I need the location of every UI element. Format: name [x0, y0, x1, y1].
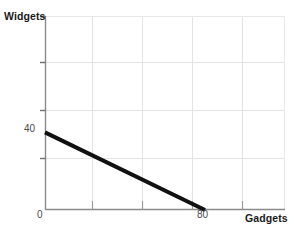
x-axis [45, 201, 285, 210]
grid-lines-vertical [93, 16, 243, 210]
frontier-line [45, 132, 205, 210]
y-axis [40, 16, 46, 210]
line-chart-figure: Widgets Gadgets 40 0 80 [0, 0, 294, 239]
grid-lines-horizontal [45, 63, 285, 159]
chart-screenshot: Widgets Gadgets 40 0 80 [0, 0, 294, 239]
data-series-frontier [45, 132, 205, 210]
y-axis-title: Widgets [4, 10, 45, 22]
x-axis-title: Gadgets [245, 212, 288, 224]
plot-border-top-right [45, 16, 285, 210]
y-tick-label-40: 40 [24, 123, 35, 134]
x-tick-label-0: 0 [37, 209, 43, 220]
chart-canvas [0, 0, 294, 239]
x-tick-label-80: 80 [197, 209, 208, 220]
